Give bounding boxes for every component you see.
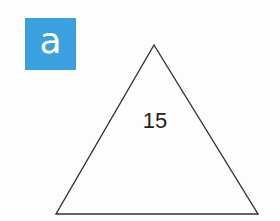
diagram-canvas: a 15 [0,0,280,221]
triangle-value: 15 [130,110,180,132]
